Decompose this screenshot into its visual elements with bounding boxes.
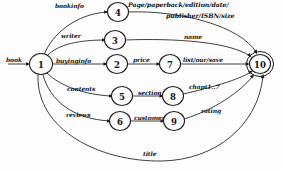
edge-label-reviews: reviews xyxy=(66,111,90,119)
node-10-accepting[interactable]: 10 xyxy=(247,52,274,77)
node-6-label: 6 xyxy=(117,117,123,127)
node-10-label: 10 xyxy=(254,60,266,70)
edge-label-book: book xyxy=(6,56,22,64)
node-6[interactable]: 6 xyxy=(110,112,131,131)
edge-label-writer: writer xyxy=(61,32,81,40)
node-5[interactable]: 5 xyxy=(112,87,133,106)
node-4-label: 4 xyxy=(115,8,121,18)
edge-label-rating: rating xyxy=(201,107,221,115)
edge-label-bookinfo: bookinfo xyxy=(55,2,84,10)
node-3-label: 3 xyxy=(112,36,118,46)
node-5-label: 5 xyxy=(119,92,125,102)
edge-label-contents: contents xyxy=(67,85,95,93)
node-4[interactable]: 4 xyxy=(108,3,129,22)
state-diagram-svg: 1 2 3 4 5 6 7 8 xyxy=(0,0,283,171)
node-2[interactable]: 2 xyxy=(107,55,128,74)
node-3[interactable]: 3 xyxy=(105,31,126,50)
node-2-label: 2 xyxy=(114,60,120,70)
node-8-label: 8 xyxy=(170,92,176,102)
node-1[interactable]: 1 xyxy=(30,54,53,75)
node-7[interactable]: 7 xyxy=(160,55,181,74)
edge-label-buyinginfo: buyinginfo xyxy=(56,57,91,65)
node-9-label: 9 xyxy=(171,117,177,127)
edge-label-customer: customer xyxy=(134,114,165,122)
edge-label-title: title xyxy=(143,150,156,158)
edge-label-price: price xyxy=(133,56,150,64)
node-9[interactable]: 9 xyxy=(164,112,185,131)
edge-1-to-3 xyxy=(47,38,107,56)
node-7-label: 7 xyxy=(167,60,173,70)
edge-3-to-10 xyxy=(125,40,252,58)
edge-label-page-attrs-line1: Page/paperback/edition/date/ xyxy=(128,1,229,9)
edge-label-list-our-save: list/our/save xyxy=(183,56,223,64)
node-1-label: 1 xyxy=(38,60,44,70)
edge-label-name: name xyxy=(184,33,202,41)
edge-label-section: section xyxy=(138,89,162,97)
node-8[interactable]: 8 xyxy=(163,87,184,106)
edge-label-chapter: chapt1..7 xyxy=(189,83,220,91)
diagram-canvas: 1 2 3 4 5 6 7 8 xyxy=(0,0,283,171)
edge-label-page-attrs-line2: publisher/ISBN/size xyxy=(166,12,234,20)
